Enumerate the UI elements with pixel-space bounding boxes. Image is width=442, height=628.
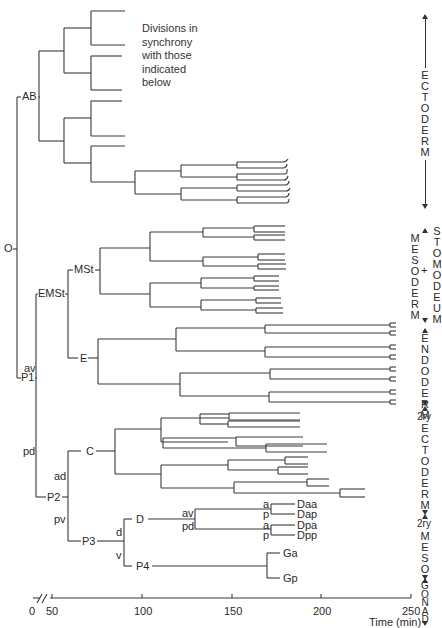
synchrony-note: Divisions in synchrony with those indica…: [142, 22, 198, 90]
branch-root: [13, 97, 21, 378]
arrow-down-icon: [422, 318, 428, 323]
time-axis: [33, 594, 411, 603]
range-line: [425, 18, 426, 68]
tissue-label-2ry-meso: MESO: [419, 531, 431, 575]
node-label-dpp: Dpp: [297, 530, 317, 541]
node-label-pd-d: pd: [182, 521, 194, 532]
axis-tick-100: 100: [134, 605, 152, 617]
node-label-p2: P2: [47, 492, 60, 503]
tissue-label-ectoderm: ECTODERM: [419, 70, 431, 158]
node-label-p3: P3: [82, 536, 95, 547]
node-label-ad: ad: [54, 471, 66, 482]
node-label-d-cell: D: [136, 514, 144, 525]
node-label-o: O: [4, 243, 13, 254]
node-label-pv: pv: [54, 514, 66, 525]
tissue-label-gonad: GONAD: [419, 582, 431, 625]
node-label-emst: EMSt: [38, 288, 65, 299]
node-label-p4: P4: [136, 561, 149, 572]
axis-tick-0: 0: [29, 605, 35, 617]
node-label-ga: Ga: [283, 548, 298, 559]
axis-tick-200: 200: [313, 605, 331, 617]
node-label-pd: pd: [23, 446, 35, 457]
note-line: Divisions in: [142, 22, 198, 36]
node-label-e: E: [80, 353, 87, 364]
plus-sign: +: [421, 265, 427, 276]
node-label-av: av: [24, 363, 36, 374]
node-label-c: C: [86, 446, 94, 457]
axis-tick-150: 150: [224, 605, 242, 617]
tissue-prefix-2ry: 2ry: [417, 518, 431, 529]
lineage-tree: [0, 0, 442, 628]
arrow-up-icon: [422, 228, 428, 233]
arrow-down-icon: [422, 204, 428, 209]
node-label-ab: AB: [22, 91, 37, 102]
axis-tick-50: 50: [46, 605, 58, 617]
node-label-v: v: [116, 550, 122, 561]
node-label-mst: MSt: [74, 264, 94, 275]
node-label-p2-sub: p: [263, 530, 269, 541]
note-line: with those: [142, 49, 198, 63]
note-line: below: [142, 76, 198, 90]
tissue-label-mesoderm: MESODERM: [409, 233, 421, 321]
axis-title: Time (min): [369, 616, 421, 628]
tissue-label-stomodeum: STOMODEUM: [431, 226, 442, 325]
range-line: [425, 160, 426, 206]
tissue-prefix-2ry: 2ry: [417, 411, 431, 422]
note-line: synchrony: [142, 36, 198, 50]
branch-p1: [35, 226, 396, 578]
node-label-d: d: [116, 527, 122, 538]
node-label-av-d: av: [182, 508, 194, 519]
arrow-down-icon: [422, 621, 428, 626]
note-line: indicated: [142, 63, 198, 77]
tissue-label-2ry-ectoderm: ECTODERM: [419, 423, 431, 511]
node-label-gp: Gp: [283, 573, 298, 584]
